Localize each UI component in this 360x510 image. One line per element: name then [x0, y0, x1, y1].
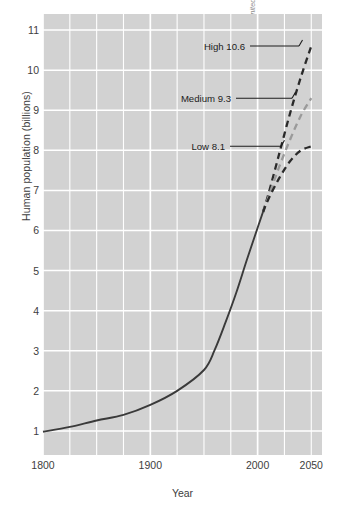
x-axis-tick-label: 2000: [228, 459, 288, 471]
y-axis-tick-label: 3: [0, 345, 39, 357]
plot-background: [43, 14, 322, 455]
x-axis-tick-label: 1900: [120, 459, 180, 471]
y-axis-tick-label: 4: [0, 305, 39, 317]
population-chart-figure: Human population (billions) Year Based o…: [0, 0, 360, 510]
y-axis-tick-label: 1: [0, 425, 39, 437]
y-axis-tick-label: 6: [0, 224, 39, 236]
y-axis-tick-label: 11: [0, 24, 39, 36]
x-axis-tick-label: 1800: [13, 459, 73, 471]
y-axis-tick-label: 5: [0, 265, 39, 277]
series-annotation-label: Low 8.1: [0, 141, 225, 152]
y-axis-tick-label: 9: [0, 104, 39, 116]
y-axis-tick-label: 2: [0, 385, 39, 397]
plot-area: [0, 0, 360, 510]
y-axis-tick-label: 10: [0, 64, 39, 76]
series-annotation-label: Medium 9.3: [0, 93, 231, 104]
y-axis-tick-label: 7: [0, 184, 39, 196]
x-axis-tick-label: 2050: [281, 459, 341, 471]
series-annotation-label: High 10.6: [0, 41, 245, 52]
